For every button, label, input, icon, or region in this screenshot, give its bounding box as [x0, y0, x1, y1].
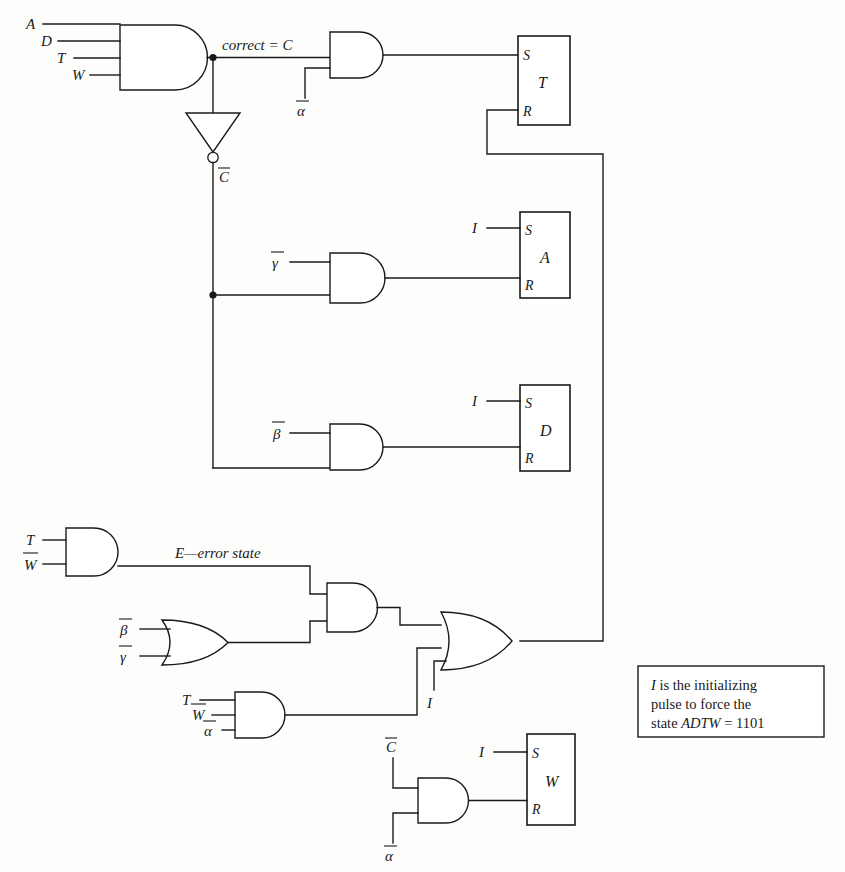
ff-t-set-pin: S: [523, 48, 530, 63]
label-w-c-bar: C: [386, 739, 397, 755]
wire-or-to-ff-t-reset: [487, 110, 603, 641]
label-alpha-bar-top: α: [297, 103, 306, 119]
label-w-alpha-bar: α: [385, 848, 394, 864]
or-gate-beta-gamma: [162, 620, 228, 665]
label-input-t: T: [57, 50, 67, 66]
ff-a-set-pin: S: [525, 223, 532, 238]
and-gate-adtw: [120, 25, 208, 90]
and-gate-error-combine: [327, 583, 378, 632]
ff-d-reset-pin: R: [524, 451, 534, 466]
ff-w-set-pin: S: [532, 746, 539, 761]
wire-and3-to-or-t: [285, 648, 441, 715]
label-or-beta-bar: β: [119, 622, 128, 638]
note-line3-pre: state: [651, 715, 681, 731]
ff-w-reset-pin: R: [531, 802, 541, 817]
ff-a-reset-pin: R: [524, 278, 534, 293]
ff-t-name: T: [538, 74, 548, 91]
and-gate-w-reset: [418, 778, 469, 823]
label-input-w: W: [72, 67, 86, 83]
wire-alphabar-to-and-t: [305, 68, 330, 98]
label-and3-alpha-bar: α: [204, 723, 213, 739]
label-i-or: I: [426, 695, 433, 711]
and-gate-t-w-alpha: [235, 692, 285, 738]
wire-or-to-and-combine: [228, 621, 327, 643]
and-gate-t-set: [330, 32, 383, 78]
note-box: I is the initializing pulse to force the…: [638, 666, 824, 737]
wire-cbar-to-and-w: [393, 758, 418, 788]
label-gamma-bar: γ: [272, 255, 279, 271]
note-line2: pulse to force the: [651, 696, 751, 712]
and-gate-a-reset: [330, 253, 385, 303]
wire-alphabar-to-and-w: [393, 813, 418, 843]
circuit-canvas: A D T W correct = C C α S R T S R A: [0, 0, 845, 872]
inverter-bubble: [208, 152, 218, 162]
label-and3-t: T: [182, 692, 192, 708]
label-correct-equals-c: correct = C: [222, 37, 293, 53]
or-gate-t-reset: [441, 612, 512, 670]
flipflop-a: S R A: [520, 212, 570, 298]
note-line3-post: = 1101: [721, 715, 765, 731]
label-beta-bar: β: [272, 426, 281, 442]
and-gate-d-reset: [330, 424, 383, 470]
label-i-ff-a: I: [471, 220, 478, 236]
note-line3-italic: ADTW: [680, 715, 722, 731]
wire-combine-to-or-t: [377, 608, 441, 626]
label-input-d: D: [40, 33, 52, 49]
ff-a-name: A: [539, 249, 550, 266]
ff-d-name: D: [539, 422, 552, 439]
flipflop-t: S R T: [518, 36, 570, 125]
ff-d-set-pin: S: [525, 396, 532, 411]
label-i-ff-w: I: [478, 744, 485, 760]
note-line1: I is the initializing: [650, 677, 757, 693]
label-i-ff-d: I: [471, 393, 478, 409]
label-err-t: T: [26, 532, 36, 548]
label-input-a: A: [25, 16, 36, 32]
label-or-gamma-bar: γ: [120, 649, 127, 665]
ff-w-name: W: [545, 773, 560, 790]
note-line3: state ADTW = 1101: [651, 715, 765, 731]
flipflop-d: S R D: [520, 385, 570, 471]
label-err-w-bar: W: [24, 557, 38, 573]
logic-circuit-diagram: A D T W correct = C C α S R T S R A: [0, 0, 845, 872]
flipflop-w: S R W: [527, 734, 575, 825]
label-c-bar: C: [219, 169, 230, 185]
wire-e-error-state: [118, 566, 327, 594]
note-line1-rest: is the initializing: [656, 677, 757, 693]
and-gate-error-state: [66, 528, 118, 576]
ff-t-reset-pin: R: [522, 104, 532, 119]
label-error-state: E—error state: [174, 545, 261, 561]
inverter-gate-c: [186, 113, 240, 163]
